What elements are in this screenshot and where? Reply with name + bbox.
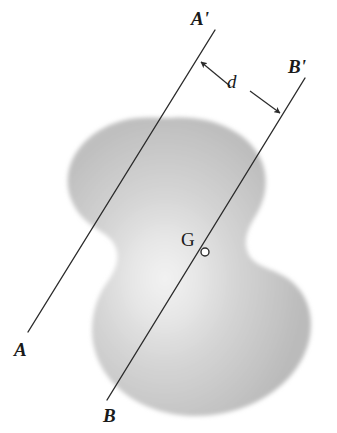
dimension-arrow-to-aa-prime — [201, 62, 230, 86]
label-axis-b-prime: B' — [288, 57, 306, 76]
centroid-marker-icon — [201, 248, 209, 256]
dimension-arrow-to-bb-prime — [250, 91, 280, 113]
figure-canvas: A A' B B' d G — [0, 0, 337, 433]
label-centroid-g: G — [181, 230, 195, 249]
label-distance-d: d — [227, 72, 237, 91]
diagram-svg — [0, 0, 337, 433]
label-axis-a-prime: A' — [191, 9, 209, 28]
label-axis-a: A — [14, 340, 27, 359]
label-axis-b: B — [103, 406, 116, 425]
